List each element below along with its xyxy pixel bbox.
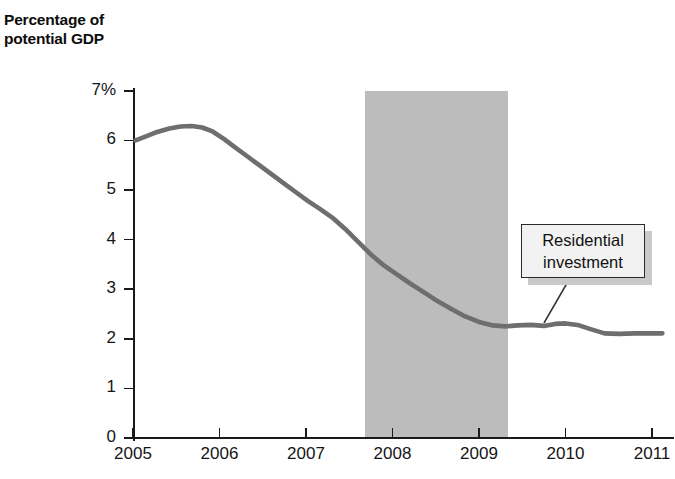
residential-investment-chart: Percentage of potential GDP 01234567% 20… (0, 0, 675, 479)
annotation-label: Residential investment (542, 229, 624, 273)
annotation-box: Residential investment (521, 224, 645, 278)
